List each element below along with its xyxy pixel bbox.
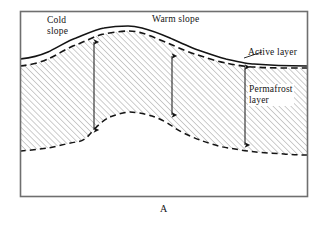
figure-caption: A: [0, 203, 327, 214]
label-active-layer: Active layer: [248, 47, 297, 58]
label-cold-slope: Cold slope: [47, 15, 68, 37]
label-permafrost-layer: Permafrost layer: [248, 84, 294, 106]
label-warm-slope: Warm slope: [152, 14, 199, 25]
figure-root: Cold slope Warm slope Active layer Perma…: [0, 0, 327, 225]
